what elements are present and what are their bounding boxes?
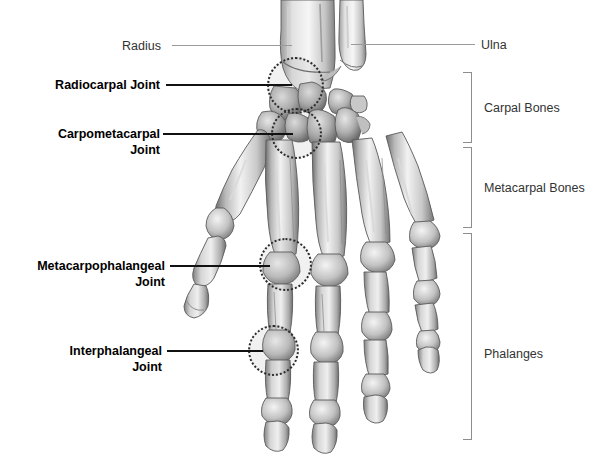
label-metacarpophalangeal-joint: Metacarpophalangeal Joint <box>10 258 165 290</box>
ulna-leader-line <box>351 44 475 45</box>
label-carpometacarpal-joint: Carpometacarpal Joint <box>16 126 160 158</box>
metacarpophalangeal-joint-leader-line <box>170 265 270 267</box>
radiocarpal-joint-leader-line <box>166 84 292 86</box>
phalanges-bracket <box>463 233 472 440</box>
interphalangeal-joint-leader-line <box>167 350 263 352</box>
carpometacarpal-joint-leader-line <box>163 133 293 135</box>
label-interphalangeal-joint: Interphalangeal Joint <box>20 343 162 375</box>
hand-skeleton-illustration <box>0 0 598 470</box>
label-metacarpal-bones: Metacarpal Bones <box>484 180 585 196</box>
label-radius: Radius <box>122 38 161 54</box>
label-ulna: Ulna <box>481 37 507 53</box>
metacarpal-bones-bracket <box>463 147 472 228</box>
anatomy-diagram-figure: Radius Ulna Radiocarpal Joint Carpometac… <box>0 0 598 470</box>
carpal-bones-bracket <box>463 72 472 143</box>
label-radiocarpal-joint: Radiocarpal Joint <box>20 77 160 93</box>
radius-leader-line <box>172 45 292 46</box>
label-carpal-bones: Carpal Bones <box>484 100 560 116</box>
label-phalanges: Phalanges <box>484 346 543 362</box>
